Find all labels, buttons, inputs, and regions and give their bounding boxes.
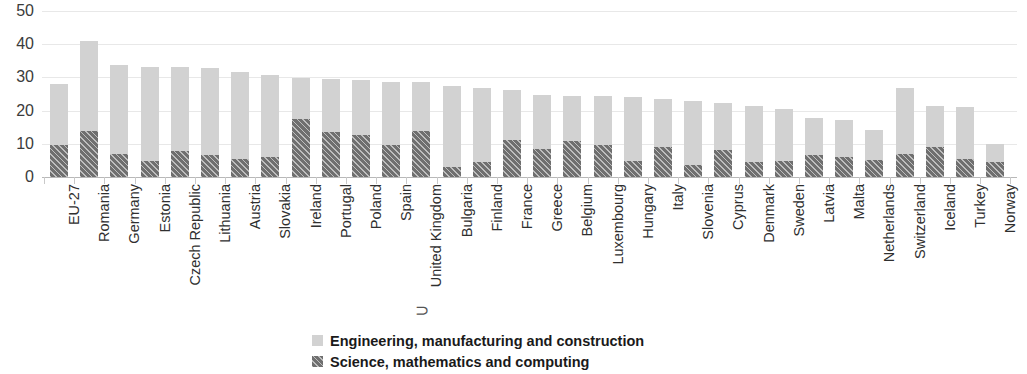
bar-france[interactable] <box>503 90 521 177</box>
tickmark <box>950 177 951 184</box>
bar-portugal[interactable] <box>322 79 340 177</box>
x-axis-labels: EU-27RomaniaGermanyEstoniaCzech Republic… <box>42 184 1017 304</box>
bar-poland[interactable] <box>352 80 370 177</box>
legend-item-science[interactable]: Science, mathematics and computing <box>312 353 644 370</box>
bar-segment-engineering <box>503 90 521 140</box>
bar-segment-science <box>292 119 310 177</box>
stray-glyph: ⊃ <box>415 300 429 321</box>
bar-segment-science <box>865 160 883 177</box>
bar-segment-engineering <box>171 67 189 151</box>
bar-segment-engineering <box>563 96 581 142</box>
tickmark <box>1010 177 1011 184</box>
bar-segment-science <box>412 131 430 177</box>
bar-segment-engineering <box>110 65 128 154</box>
bar-czech-republic[interactable] <box>171 67 189 177</box>
bar-segment-science <box>261 157 279 177</box>
bar-segment-engineering <box>382 82 400 145</box>
bar-segment-science <box>805 155 823 177</box>
x-axis-label-austria: Austria <box>246 184 264 229</box>
bar-lithuania[interactable] <box>201 68 219 177</box>
bar-segment-engineering <box>80 41 98 131</box>
tickmark <box>165 177 166 184</box>
bar-segment-science <box>775 161 793 177</box>
bar-cyprus[interactable] <box>714 103 732 177</box>
bar-greece[interactable] <box>533 95 551 177</box>
bar-segment-science <box>50 145 68 177</box>
bar-hungary[interactable] <box>624 97 642 177</box>
x-axis-label-luxembourg: Luxembourg <box>609 184 627 265</box>
bar-segment-science <box>201 155 219 177</box>
bar-austria[interactable] <box>231 72 249 177</box>
tickmark <box>467 177 468 184</box>
bar-segment-science <box>80 131 98 177</box>
bar-malta[interactable] <box>835 120 853 177</box>
bar-segment-engineering <box>624 97 642 162</box>
x-axis-label-netherlands: Netherlands <box>880 184 898 262</box>
bar-sweden[interactable] <box>775 109 793 177</box>
tickmark <box>739 177 740 184</box>
legend-swatch-icon-engineering <box>312 335 323 346</box>
x-axis-label-eu-27: EU-27 <box>65 184 83 225</box>
bar-segment-engineering <box>775 109 793 161</box>
bar-italy[interactable] <box>654 99 672 177</box>
bar-slovenia[interactable] <box>684 101 702 177</box>
x-axis-label-portugal: Portugal <box>337 184 355 238</box>
tickmark <box>195 177 196 184</box>
bar-switzerland[interactable] <box>896 88 914 177</box>
legend-item-engineering[interactable]: Engineering, manufacturing and construct… <box>312 332 644 349</box>
bar-segment-engineering <box>412 82 430 130</box>
bar-united-kingdom[interactable] <box>412 82 430 177</box>
bar-netherlands[interactable] <box>865 130 883 177</box>
bar-segment-science <box>382 145 400 177</box>
bar-segment-engineering <box>141 67 159 161</box>
bar-romania[interactable] <box>80 41 98 177</box>
bar-segment-engineering <box>594 96 612 145</box>
tickmark <box>316 177 317 184</box>
legend-label-engineering: Engineering, manufacturing and construct… <box>330 333 644 349</box>
bar-segment-engineering <box>443 86 461 167</box>
bar-eu-27[interactable] <box>50 84 68 177</box>
x-axis-label-greece: Greece <box>548 184 566 232</box>
x-axis-label-united-kingdom: United Kingdom <box>427 184 445 287</box>
bar-segment-engineering <box>473 88 491 162</box>
x-axis-label-romania: Romania <box>95 184 113 242</box>
x-axis-label-denmark: Denmark <box>760 184 778 243</box>
tickmark <box>437 177 438 184</box>
y-axis-tick-30: 30 <box>0 69 34 85</box>
tickmark <box>618 177 619 184</box>
x-axis-label-cyprus: Cyprus <box>729 184 747 230</box>
bar-segment-science <box>503 140 521 177</box>
x-axis-label-iceland: Iceland <box>941 184 959 231</box>
chart-legend: Engineering, manufacturing and construct… <box>312 332 644 374</box>
bar-luxembourg[interactable] <box>594 96 612 177</box>
bar-segment-science <box>443 167 461 177</box>
bar-turkey[interactable] <box>956 107 974 177</box>
legend-swatch-icon-science <box>312 356 323 367</box>
x-axis-label-sweden: Sweden <box>790 184 808 236</box>
bar-norway[interactable] <box>986 144 1004 177</box>
bar-denmark[interactable] <box>745 106 763 177</box>
bar-segment-engineering <box>533 95 551 149</box>
bar-estonia[interactable] <box>141 67 159 177</box>
bar-segment-science <box>956 159 974 177</box>
x-axis-label-slovakia: Slovakia <box>276 184 294 239</box>
bar-spain[interactable] <box>382 82 400 177</box>
bar-segment-science <box>624 161 642 177</box>
bar-segment-engineering <box>865 130 883 161</box>
bar-segment-engineering <box>654 99 672 147</box>
bar-segment-engineering <box>231 72 249 159</box>
bar-segment-engineering <box>714 103 732 150</box>
bar-segment-science <box>171 151 189 177</box>
bar-segment-science <box>141 161 159 177</box>
bar-belgium[interactable] <box>563 96 581 177</box>
bar-segment-engineering <box>201 68 219 155</box>
bar-ireland[interactable] <box>292 78 310 177</box>
bar-latvia[interactable] <box>805 118 823 177</box>
bar-germany[interactable] <box>110 65 128 177</box>
bar-finland[interactable] <box>473 88 491 177</box>
bar-slovakia[interactable] <box>261 75 279 177</box>
bar-segment-engineering <box>261 75 279 157</box>
bar-iceland[interactable] <box>926 106 944 177</box>
x-axis-label-italy: Italy <box>669 184 687 211</box>
bar-bulgaria[interactable] <box>443 86 461 177</box>
